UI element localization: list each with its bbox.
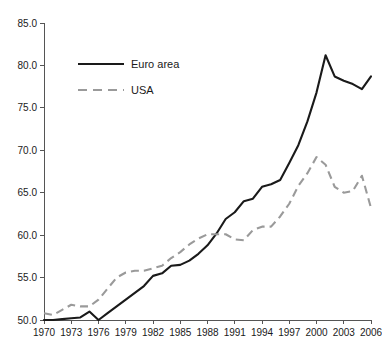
chart-canvas: 50.055.060.065.070.075.080.085.0 1970197… <box>0 0 382 351</box>
x-tick-label: 1988 <box>196 327 219 338</box>
x-tick-label: 2003 <box>333 327 356 338</box>
y-axis: 50.055.060.065.070.075.080.085.0 <box>18 18 44 326</box>
x-tick-label: 1997 <box>278 327 301 338</box>
x-tick-label: 1979 <box>115 327 138 338</box>
series-layer <box>44 55 371 320</box>
x-tick-label: 1973 <box>60 327 83 338</box>
x-tick-label: 1994 <box>251 327 274 338</box>
y-tick-label: 70.0 <box>18 145 38 156</box>
x-tick-label: 1976 <box>87 327 110 338</box>
line-chart: 50.055.060.065.070.075.080.085.0 1970197… <box>0 0 382 351</box>
chart-legend: Euro areaUSA <box>78 58 180 96</box>
y-tick-label: 55.0 <box>18 272 38 283</box>
y-tick-label: 75.0 <box>18 102 38 113</box>
x-tick-label: 1970 <box>33 327 56 338</box>
y-tick-label: 65.0 <box>18 187 38 198</box>
x-tick-label: 1982 <box>142 327 165 338</box>
series-line-usa <box>44 157 371 315</box>
y-tick-label: 60.0 <box>18 230 38 241</box>
x-tick-label: 2006 <box>360 327 382 338</box>
x-tick-label: 2000 <box>305 327 328 338</box>
series-line-euro-area <box>44 55 371 320</box>
y-tick-label: 50.0 <box>18 315 38 326</box>
x-tick-label: 1991 <box>224 327 247 338</box>
legend-label-usa: USA <box>131 84 154 96</box>
legend-label-euro-area: Euro area <box>131 58 180 70</box>
x-axis: 1970197319761979198219851988199119941997… <box>33 320 382 338</box>
y-tick-label: 85.0 <box>18 18 38 29</box>
x-tick-label: 1985 <box>169 327 192 338</box>
y-tick-label: 80.0 <box>18 60 38 71</box>
